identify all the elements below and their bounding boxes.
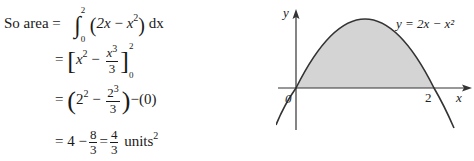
units-label: units (124, 133, 153, 149)
open-bracket: [ (67, 46, 76, 75)
y-axis-label: y (281, 5, 289, 20)
term-2x: 2x (97, 15, 111, 31)
units-exponent: 2 (153, 130, 158, 141)
origin-label: 0 (285, 91, 292, 106)
close-bracket: ] (120, 46, 129, 75)
close-paren: ) (122, 86, 131, 115)
solution-line-4: = 4 −83=43 units2 (55, 128, 158, 157)
x-tick-label-2: 2 (425, 90, 432, 105)
integral-limits: 20 (81, 8, 90, 42)
worked-solution: So area = ∫20(2x − x2) dx = [x2 − x33]20… (0, 0, 250, 161)
minus-zero: −(0) (131, 91, 157, 107)
equals-sign: = (55, 91, 63, 107)
equals-sign: = (55, 51, 63, 67)
integral-sign: ∫ (74, 12, 81, 38)
evaluation-limits: 20 (129, 44, 138, 78)
area-prefix: So area = (4, 15, 61, 31)
x-axis-label: x (455, 90, 462, 105)
exponent: 2 (83, 48, 88, 59)
lower-limit: 0 (81, 35, 86, 44)
curve-label: y = 2x − x² (394, 16, 455, 31)
fraction-2cubed-over-3: 233 (106, 86, 120, 116)
differential-dx: dx (145, 15, 164, 31)
fraction-4-over-3: 43 (110, 128, 119, 157)
minus-sign: − (88, 91, 104, 107)
fraction-8-over-3: 83 (89, 128, 98, 157)
four-minus: 4 − (67, 133, 87, 149)
fraction-x3-over-3: x33 (106, 46, 119, 76)
open-paren: ( (67, 86, 76, 115)
minus-sign: − (111, 15, 127, 31)
equals-sign-2: = (99, 133, 107, 149)
solution-line-3: = (22 − 233)−(0) (55, 86, 156, 116)
exponent: 2 (83, 88, 88, 99)
upper-limit: 2 (81, 6, 86, 15)
parabola-graph: y x 0 2 y = 2x − x² (276, 0, 474, 161)
term-x: x (76, 51, 83, 67)
exponent: 2 (133, 12, 138, 23)
open-paren: ( (90, 14, 97, 36)
close-paren: ) (138, 14, 145, 36)
minus-sign: − (88, 51, 104, 67)
solution-line-2: = [x2 − x33]20 (55, 44, 138, 78)
solution-line-1: So area = ∫20(2x − x2) dx (4, 8, 164, 42)
equals-sign: = (55, 133, 63, 149)
